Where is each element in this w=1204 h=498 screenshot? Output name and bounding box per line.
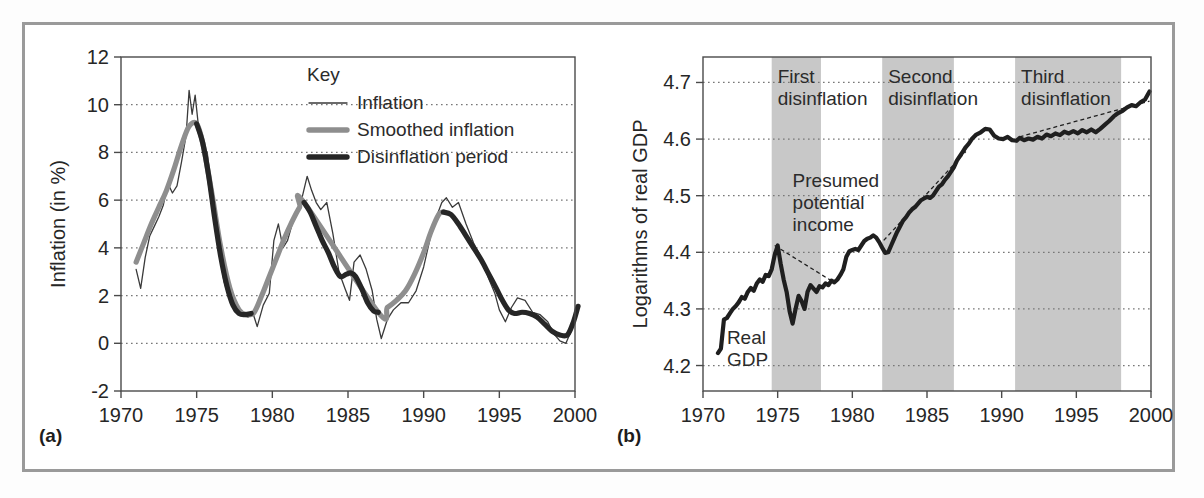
x-tick-label: 1970	[99, 404, 144, 426]
band-label-line2: disinflation	[888, 88, 978, 109]
y-tick-label: 4.7	[663, 71, 691, 93]
series-disinflation-period-seg3	[443, 212, 578, 336]
band-label-line1: Third	[1021, 66, 1064, 87]
y-tick-label: 4.2	[663, 355, 691, 377]
presumed-potential-income-label: potential	[793, 192, 865, 213]
inflation-chart-svg: -20246810121970197519801985199019952000I…	[25, 25, 603, 475]
x-tick-label: 1980	[250, 404, 295, 426]
band-label-line2: disinflation	[1021, 88, 1111, 109]
y-tick-label: 4.5	[663, 185, 691, 207]
real-gdp-label: GDP	[727, 349, 768, 370]
panel-a-inflation-chart: -20246810121970197519801985199019952000I…	[25, 25, 603, 469]
figure-frame: -20246810121970197519801985199019952000I…	[22, 22, 1175, 472]
real-gdp-label: Real	[727, 327, 766, 348]
x-tick-label: 2000	[1129, 404, 1174, 426]
presumed-potential-income-label: Presumed	[793, 170, 880, 191]
real-gdp-chart-svg: 4.24.34.44.54.64.71970197519801985199019…	[603, 25, 1178, 475]
y-tick-label: -2	[91, 380, 109, 402]
legend-title: Key	[307, 64, 340, 85]
y-tick-label: 4.3	[663, 298, 691, 320]
y-tick-label: 4.4	[663, 241, 691, 263]
band-label-line1: First	[778, 66, 816, 87]
presumed-potential-income-label: income	[793, 214, 854, 235]
panel-b-real-gdp-chart: 4.24.34.44.54.64.71970197519801985199019…	[603, 25, 1178, 469]
legend-label-2: Smoothed inflation	[357, 119, 514, 140]
x-tick-label: 1990	[979, 404, 1024, 426]
y-axis-title: Logarithms of real GDP	[629, 120, 651, 329]
x-tick-label: 1995	[477, 404, 522, 426]
x-tick-label: 1975	[174, 404, 219, 426]
chart-legend: KeyInflationSmoothed inflationDisinflati…	[307, 64, 514, 167]
series-disinflation-period-seg1	[197, 124, 251, 315]
y-tick-label: 4	[98, 237, 109, 259]
x-tick-label: 1975	[755, 404, 800, 426]
x-tick-label: 1990	[401, 404, 446, 426]
y-tick-label: 2	[98, 285, 109, 307]
y-tick-label: 10	[87, 94, 109, 116]
x-tick-label: 1980	[830, 404, 875, 426]
x-tick-label: 1985	[905, 404, 950, 426]
x-tick-label: 1970	[681, 404, 726, 426]
legend-label-1: Inflation	[357, 92, 424, 113]
panel-b-label: (b)	[617, 425, 641, 447]
x-tick-label: 1995	[1054, 404, 1099, 426]
y-tick-label: 12	[87, 46, 109, 68]
panel-a-label: (a)	[39, 425, 62, 447]
x-tick-label: 1985	[326, 404, 371, 426]
y-tick-label: 0	[98, 332, 109, 354]
y-axis-title: Inflation (in %)	[47, 160, 69, 288]
plot-frame	[121, 57, 575, 391]
band-label-line2: disinflation	[778, 88, 868, 109]
band-label-line1: Second	[888, 66, 952, 87]
y-tick-label: 8	[98, 141, 109, 163]
legend-label-3: Disinflation period	[357, 146, 508, 167]
y-tick-label: 4.6	[663, 128, 691, 150]
x-tick-label: 2000	[553, 404, 598, 426]
y-tick-label: 6	[98, 189, 109, 211]
